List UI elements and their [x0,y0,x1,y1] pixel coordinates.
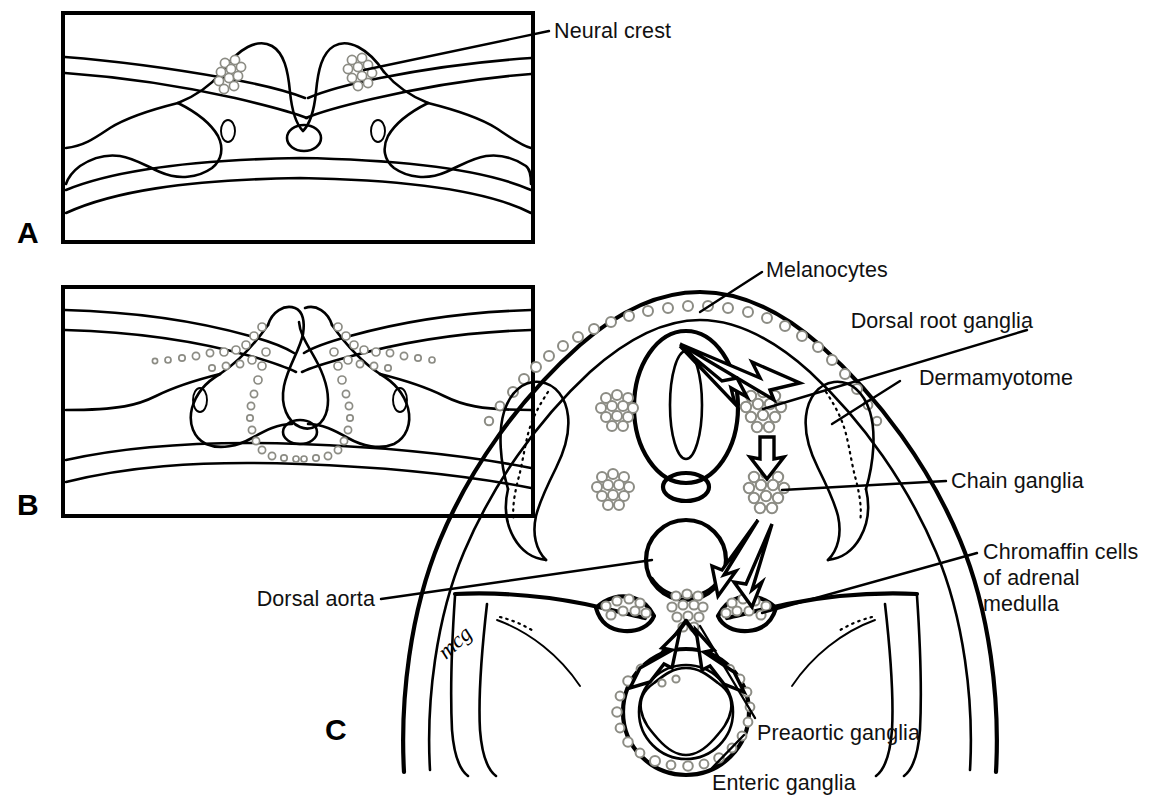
label-preaortic-ganglia: Preaortic ganglia [757,721,920,745]
panel-letter-c: C [325,713,347,746]
panel-a: A [17,13,549,249]
neural-tube-lumen [670,351,702,459]
artist-signature: mcg [433,621,477,664]
cell-cluster-lower-left [592,469,634,510]
panel-letter-a: A [17,216,39,249]
panel-a-frame [63,13,533,242]
label-chromaffin-cells: Chromaffin cells [983,540,1138,564]
melanocyte-band [485,301,881,425]
label-of-adrenal: of adrenal [983,566,1080,590]
label-enteric-ganglia: Enteric ganglia [712,771,856,795]
leader-chain-ganglia [782,481,946,490]
leader-chromaffin-cells [762,553,977,613]
label-chain-ganglia: Chain ganglia [951,469,1084,493]
embryology-figure: A Neural crest [0,0,1155,807]
leader-enteric-ganglia [712,735,744,768]
dorsal-aorta [646,520,726,600]
label-neural-crest: Neural crest [554,19,671,43]
label-dorsal-root-ganglia: Dorsal root ganglia [851,309,1033,333]
panel-b: B [17,287,533,521]
notochord [663,473,709,501]
label-melanocytes: Melanocytes [766,258,888,282]
label-medulla: medulla [983,592,1059,616]
panel-letter-b: B [17,488,39,521]
cell-cluster-upper-left [596,390,638,431]
label-dorsal-aorta: Dorsal aorta [257,587,375,611]
dermamyotome-dotted-right [826,392,861,522]
label-dermamyotome: Dermamyotome [919,366,1073,390]
gut-lumen [641,668,732,755]
